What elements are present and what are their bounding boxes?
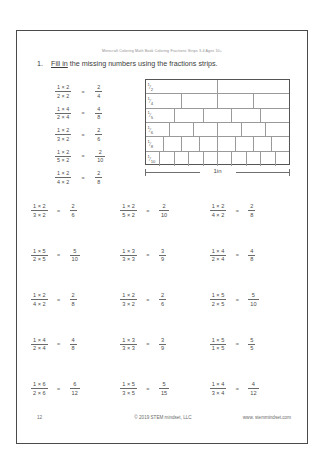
answer-fraction-numerator: 5 [248,292,258,300]
equals-sign: = [71,153,95,159]
answer-fraction-numerator: 4 [248,381,258,389]
answer-fraction-denominator: 10 [95,157,105,164]
equals-sign: = [48,386,70,392]
strip-cell [175,152,189,166]
answer-fraction-denominator: 8 [95,114,102,121]
equation-grid: 1 × 23 × 2=261 × 25 × 2=2101 × 24 × 2=28… [31,199,299,422]
left-fraction-denominator: 4 × 2 [31,300,48,307]
answer-fraction-numerator: 2 [95,84,102,92]
fraction: 26 [159,292,166,308]
answer-fraction-numerator: 2 [70,203,77,211]
fraction: 28 [70,292,77,308]
equation-row: 1 × 25 × 2=210 [55,146,137,168]
left-fraction-numerator: 1 × 4 [210,381,227,389]
equals-sign: = [71,89,95,95]
left-fraction-denominator: 3 × 2 [120,300,137,307]
strip-cell [218,123,242,136]
equation-grid-row: 1 × 42 × 4=481 × 33 × 3=391 × 51 × 5=55 [31,333,299,378]
fraction: 210 [95,149,105,165]
equation-item: 1 × 42 × 4=48 [210,244,299,264]
footer-website: www. stemmindset.com [243,415,291,420]
left-fraction-numerator: 1 × 2 [55,149,71,157]
left-fraction-denominator: 2 × 5 [210,300,227,307]
left-fraction-denominator: 2 × 4 [210,256,227,263]
fraction: 24 [95,84,102,100]
answer-fraction-denominator: 8 [70,345,77,352]
instruction-underlined-text: Fill in [51,59,68,68]
equation-row: 1 × 22 × 2=24 [55,81,137,103]
equals-sign: = [226,208,248,214]
equation-item: 1 × 25 × 2=210 [120,199,209,219]
left-fraction-numerator: 1 × 5 [210,337,227,345]
strip-label: 1⁄8 [148,139,154,149]
left-fraction-numerator: 1 × 2 [120,203,137,211]
strip-label: 1⁄4 [148,96,154,106]
strip-cell [218,80,289,93]
left-fraction-numerator: 1 × 2 [55,127,71,135]
strip-label: 1⁄5 [148,110,154,120]
equals-sign: = [137,252,159,258]
left-fraction-numerator: 1 × 2 [210,203,227,211]
instruction-rest-text: the missing numbers using the fractions … [68,59,218,68]
strip-label: 1⁄2 [148,82,154,92]
strip-cell [175,109,204,122]
left-fraction-denominator: 2 × 5 [31,256,48,263]
strip-cell: 1⁄10 [146,152,160,166]
answer-fraction-denominator: 6 [70,211,77,218]
left-fraction-numerator: 1 × 5 [120,381,137,389]
answer-fraction-numerator: 6 [70,381,80,389]
strip-label: 1⁄10 [148,154,156,164]
left-fraction-denominator: 2 × 4 [31,345,48,352]
fraction: 48 [95,106,102,122]
equation-item: 1 × 53 × 5=515 [120,377,209,397]
fraction: 1 × 43 × 4 [210,381,227,397]
fraction: 28 [248,203,255,219]
answer-fraction-denominator: 6 [95,135,102,142]
answer-fraction-numerator: 4 [95,106,102,114]
instruction-number: 1. [37,59,43,68]
equals-sign: = [137,208,159,214]
answer-fraction-denominator: 10 [159,211,169,218]
equation-grid-row: 1 × 23 × 2=261 × 25 × 2=2101 × 24 × 2=28 [31,199,299,244]
left-fraction-numerator: 1 × 5 [31,248,48,256]
strip-cell: 1⁄5 [146,109,175,122]
answer-fraction-denominator: 9 [159,256,166,263]
fraction: 1 × 52 × 5 [31,248,48,264]
equals-sign: = [226,252,248,258]
equation-item: 1 × 52 × 5=510 [31,244,120,264]
fraction: 515 [159,381,169,397]
fraction: 1 × 53 × 5 [120,381,137,397]
equation-item: 1 × 24 × 2=28 [31,288,120,308]
equals-sign: = [226,341,248,347]
page-footer: 12 © 2019 STEM mindset, LLC www. stemmin… [17,415,309,425]
left-fraction-denominator: 2 × 4 [55,114,71,121]
answer-fraction-denominator: 8 [248,211,255,218]
strip-cell [164,137,182,150]
equals-sign: = [226,386,248,392]
strip-cell [254,137,272,150]
equals-sign: = [226,297,248,303]
equals-sign: = [48,341,70,347]
left-fraction-numerator: 1 × 2 [55,84,71,92]
measure-tick-left [145,169,146,176]
left-fraction-denominator: 4 × 2 [210,211,227,218]
answer-fraction-numerator: 3 [159,248,166,256]
equation-row: 1 × 23 × 2=26 [55,124,137,146]
fraction: 39 [159,248,166,264]
fraction: 1 × 24 × 2 [31,292,48,308]
left-fraction-numerator: 1 × 4 [31,337,48,345]
strip-cell [160,152,174,166]
strip-cell [170,123,194,136]
answer-fraction-denominator: 15 [159,389,169,396]
strip-cell [261,152,275,166]
answer-fraction-numerator: 5 [70,248,80,256]
strip-cell [182,94,218,107]
strip-cell [266,123,289,136]
left-fraction-denominator: 3 × 4 [210,389,227,396]
fraction: 1 × 51 × 5 [210,337,227,353]
strip-cell [261,109,289,122]
strip-cell [218,94,254,107]
answer-fraction-numerator: 3 [159,337,166,345]
strip-cell [247,152,261,166]
left-fraction-denominator: 3 × 2 [31,211,48,218]
